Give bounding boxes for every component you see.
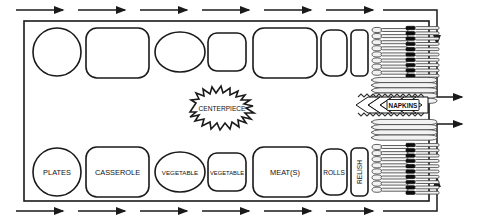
dish-meats: MEAT(S)	[253, 147, 317, 197]
dish-top-vegetable-1	[155, 32, 205, 72]
dish-rolls: ROLLS	[321, 149, 347, 195]
dish-vegetable-1-label: VEGETABLE	[162, 169, 198, 176]
dish-top-meats	[253, 28, 317, 78]
dish-top-rolls	[321, 30, 347, 76]
dish-rolls-label: ROLLS	[323, 169, 345, 176]
buffet-table-diagram: NAPKINS	[0, 0, 477, 222]
flow-arrow-right-2	[437, 62, 462, 97]
dish-plates: PLATES	[33, 148, 81, 196]
flow-arrow-right-3	[437, 124, 462, 157]
diagram-canvas: NAPKINS	[0, 0, 477, 222]
dish-relish-label: RELISH	[356, 160, 363, 184]
dish-vegetable-2: VEGETABLE	[208, 153, 246, 191]
dish-top-casserole	[86, 28, 149, 78]
dish-vegetable-1: VEGETABLE	[155, 152, 205, 192]
dish-meats-label: MEAT(S)	[270, 168, 300, 177]
dish-plates-label: PLATES	[43, 168, 71, 177]
utensils-knives-lower	[371, 119, 437, 140]
dish-top-relish	[351, 30, 368, 76]
napkins-group: NAPKINS	[356, 94, 428, 116]
dish-top-vegetable-2	[208, 33, 246, 71]
dish-casserole: CASSEROLE	[86, 147, 149, 197]
dish-top-plates	[33, 28, 81, 76]
dish-vegetable-2-label: VEGETABLE	[210, 170, 244, 176]
dish-casserole-label: CASSEROLE	[95, 168, 140, 177]
napkins-label: NAPKINS	[389, 102, 418, 109]
centerpiece-label: CENTERPIECE	[199, 105, 246, 112]
dish-relish: RELISH	[351, 148, 368, 196]
